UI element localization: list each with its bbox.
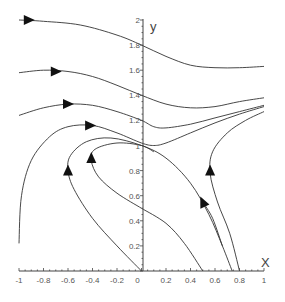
y-tick-label: 1.2 [129,116,141,125]
arrow-head-icon [63,99,74,109]
x-tick-label: 0.8 [234,276,246,285]
x-tick-label: 0.4 [185,276,197,285]
trajectory-1 [19,20,264,68]
axis-ticks [19,20,264,271]
y-tick-label: 0.4 [129,217,141,226]
phase-portrait-plot: -1-0.8-0.6-0.4-0.200.20.40.60.810.20.40.… [0,0,285,302]
x-axis-label: X [261,255,270,270]
trajectory-8 [210,112,264,271]
arrow-head-icon [51,67,62,77]
x-tick-label: -0.6 [61,276,75,285]
arrow-head-icon [24,15,35,25]
y-tick-label: 2 [136,16,141,25]
y-tick-label: 1 [136,142,141,151]
arrow-head-icon [63,165,73,176]
x-tick-label: 0.2 [160,276,172,285]
x-tick-label: -0.4 [86,276,100,285]
y-tick-label: 1.8 [129,41,141,50]
arrow-head-icon [86,152,96,163]
x-tick-label: -1 [15,276,23,285]
x-tick-label: 0 [135,276,140,285]
y-axis-label: y [150,19,157,34]
arrow-head-icon [85,120,96,130]
tick-labels: -1-0.8-0.6-0.4-0.200.20.40.60.810.20.40.… [15,16,266,285]
y-tick-label: 1.4 [129,91,141,100]
y-tick-label: 1.6 [129,66,141,75]
arrow-head-icon [196,194,210,208]
x-tick-label: 0.6 [209,276,221,285]
x-tick-label: 1 [262,276,267,285]
arrow-head-icon [205,165,215,176]
y-tick-label: 0.6 [129,192,141,201]
x-tick-label: -0.2 [110,276,124,285]
trajectory-6 [91,143,154,208]
direction-arrows [24,15,215,209]
trajectory-4 [19,107,264,244]
y-tick-label: 0.2 [129,242,141,251]
x-tick-label: -0.8 [37,276,51,285]
y-tick-label: 0.8 [129,167,141,176]
trajectory-7 [142,208,203,271]
